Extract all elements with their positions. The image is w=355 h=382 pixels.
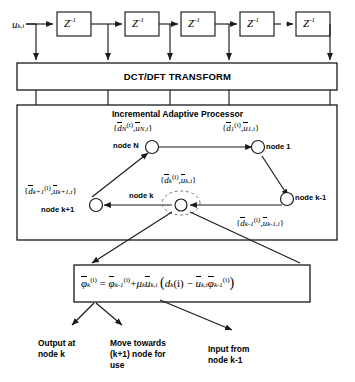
arrow-to-caption-input [160,300,232,330]
arrow-to-caption-output [72,303,94,325]
caption-move-line-1: Move towards [110,338,200,349]
delay-block-2-label: Z-1 [132,16,144,29]
delay-block-3-label: Z-1 [188,16,200,29]
node-k-minus-1-circle [281,193,294,206]
caption-move-line-3: use [110,360,200,371]
node-N-pair-label: {dN(i),uN,i} [113,121,153,133]
caption-input-from-node: Input from node k-1 [208,344,294,366]
caption-move-line-2: (k+1) node for [110,349,200,360]
incremental-adaptive-processor-diagram: uk,i Z-1 Z-1 Z-1 Z-1 Z-1 DCT/DFT TRANSFO… [0,0,355,382]
dct-dft-transform-label: DCT/DFT TRANSFORM [0,71,355,82]
node-k-minus-1-pair-label: {dk-1(i),uk-1,i} [236,216,284,228]
node-1-circle [252,141,265,154]
update-equation: φk(i) = φk-1(i)+μkuk,i (dk(i) − uk,iφk-1… [81,275,234,291]
delay-block-5-label: Z-1 [303,16,315,29]
delay-block-4-label: Z-1 [247,16,259,29]
node-k-plus-1-label: node k+1 [41,205,74,214]
caption-input-line-2: node k-1 [208,355,294,366]
caption-move-towards-node: Move towards (k+1) node for use [110,338,200,371]
node-k-plus-1-circle [90,199,103,212]
arrow-to-caption-move [96,303,122,325]
caption-output-line-2: node k [38,349,112,360]
incremental-adaptive-processor-label: Incremental Adaptive Processor [0,109,355,119]
node-N-circle [146,141,159,154]
node-k-circle [175,199,187,211]
node-N-label: node N [113,141,139,150]
node-k-minus-1-label: node k-1 [295,193,326,202]
node-k-label: node k [129,191,153,200]
caption-output-line-1: Output at [38,338,112,349]
node-1-label: node 1 [266,142,290,151]
node-k-pair-label: {dk(i),uk,i} [160,173,196,185]
delay-block-1-label: Z-1 [64,16,76,29]
node-1-pair-label: {d1(i),u1,i} [222,121,259,133]
caption-arrow-group [72,300,232,330]
input-signal-label: uk,i [12,14,24,32]
node-k-plus-1-pair-label: {dk+1(i),uk+1,i} [24,184,77,196]
transform-output-group [36,90,330,105]
caption-input-line-1: Input from [208,344,294,355]
caption-output-at-node-k: Output at node k [38,338,112,360]
